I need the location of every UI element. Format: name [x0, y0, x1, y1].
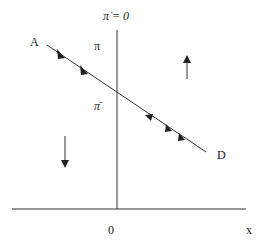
point-a-label: A — [30, 35, 39, 49]
saddle-arrow-a2 — [80, 65, 88, 75]
pi-label: π — [94, 39, 100, 53]
point-d-label: D — [217, 148, 226, 162]
saddle-arrow-d1 — [145, 114, 153, 121]
saddle-arrow-a1 — [57, 49, 65, 59]
saddle-path — [47, 45, 206, 152]
locus-label: π̇ = 0 — [103, 9, 129, 23]
x-axis-label: x — [246, 223, 252, 237]
pibar-label: π̄ — [94, 99, 103, 113]
origin-label: 0 — [108, 223, 114, 237]
phase-diagram: π̇ = 0 π π̄ A D 0 x — [0, 0, 264, 246]
